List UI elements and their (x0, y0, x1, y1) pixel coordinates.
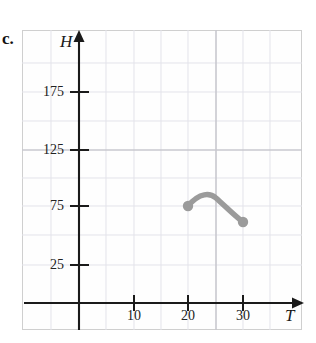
y-tick-label-175: 175 (22, 84, 64, 100)
curve-endpoint-right (238, 217, 248, 227)
x-axis-label: T (285, 306, 294, 326)
y-tick-label-125: 125 (22, 142, 64, 158)
y-tick-label-25: 25 (22, 257, 64, 273)
grid-vertical-lines (51, 30, 270, 330)
y-axis-arrowhead (74, 30, 85, 42)
x-tick-label-30: 30 (226, 308, 260, 324)
x-tick-label-20: 20 (171, 308, 205, 324)
plot-canvas (0, 0, 316, 343)
x-tick-label-10: 10 (117, 308, 151, 324)
figure-root: c. (0, 0, 316, 343)
grid-emphasis-lines (22, 30, 302, 330)
curve-endpoint-left (183, 201, 193, 211)
y-tick-label-75: 75 (22, 198, 64, 214)
y-axis-label: H (60, 32, 72, 52)
grid-horizontal-lines (22, 63, 302, 265)
